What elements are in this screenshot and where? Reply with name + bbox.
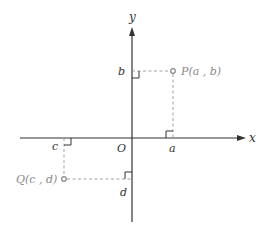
coordinate-diagram: x y O P(a , b) b a Q(c , d) c d [0,0,270,231]
right-angle-marker-b [132,71,139,78]
point-q-label: Q(c , d) [16,173,57,186]
right-angle-marker-d [125,172,132,179]
b-label: b [118,65,125,78]
d-label: d [120,186,127,199]
a-label: a [169,142,176,155]
coordinate-plane-svg: x y O P(a , b) b a Q(c , d) c d [0,0,270,231]
x-axis-label: x [249,131,256,145]
y-axis-arrow-icon [129,27,135,36]
right-angle-marker-c [64,138,71,145]
point-q-marker [62,177,67,182]
point-p-marker [171,69,176,74]
right-angle-marker-a [166,131,173,138]
c-label: c [52,140,58,153]
origin-label: O [117,142,126,155]
point-p-label: P(a , b) [180,65,221,78]
y-axis-label: y [128,10,136,24]
x-axis-arrow-icon [237,135,246,141]
